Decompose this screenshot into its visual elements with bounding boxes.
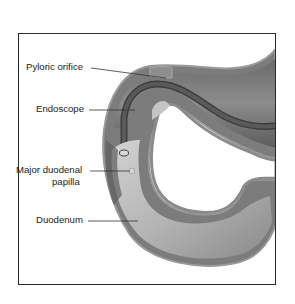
endoscope-tip bbox=[120, 150, 129, 156]
label-papilla: papilla bbox=[52, 177, 80, 188]
label-endoscope: Endoscope bbox=[36, 104, 84, 115]
label-duodenum: Duodenum bbox=[36, 215, 83, 226]
duodenum-illustration bbox=[0, 0, 295, 304]
label-major-duodenal: Major duodenal bbox=[16, 165, 82, 176]
label-pyloric-orifice: Pyloric orifice bbox=[26, 62, 83, 73]
